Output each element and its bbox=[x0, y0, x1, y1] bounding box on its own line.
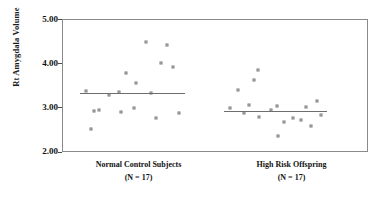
data-point bbox=[283, 120, 286, 123]
data-point bbox=[85, 89, 88, 92]
data-point bbox=[93, 110, 96, 113]
data-point bbox=[90, 127, 93, 130]
data-point bbox=[258, 115, 261, 118]
data-point bbox=[253, 78, 256, 81]
x-axis-label-left: Normal Control Subjects (N = 17) bbox=[62, 161, 215, 183]
data-point bbox=[125, 71, 128, 74]
data-point bbox=[320, 114, 323, 117]
data-point bbox=[133, 107, 136, 110]
y-tick-label-2: 2.00 bbox=[42, 147, 58, 156]
data-point bbox=[229, 107, 232, 110]
mean-line bbox=[224, 111, 327, 112]
data-point bbox=[277, 135, 280, 138]
data-point bbox=[243, 112, 246, 115]
data-point bbox=[316, 99, 319, 102]
data-point bbox=[237, 89, 240, 92]
plot-frame bbox=[62, 19, 368, 152]
data-point bbox=[300, 119, 303, 122]
y-tick-mark-2 bbox=[58, 152, 62, 153]
data-point bbox=[248, 104, 251, 107]
data-point bbox=[120, 111, 123, 114]
x-axis-label-right: High Risk Offspring (N = 17) bbox=[215, 161, 368, 183]
y-tick-label-5: 5.00 bbox=[42, 15, 58, 24]
data-point bbox=[292, 117, 295, 120]
data-point bbox=[135, 81, 138, 84]
group-n-right: (N = 17) bbox=[215, 174, 368, 182]
data-point bbox=[145, 41, 148, 44]
data-point bbox=[276, 105, 279, 108]
group-n-left: (N = 17) bbox=[62, 174, 215, 182]
chart-canvas: Rt Amygdala Volume 5.00 4.00 3.00 2.00 N… bbox=[0, 0, 385, 197]
data-point bbox=[166, 44, 169, 47]
data-point bbox=[160, 62, 163, 65]
y-axis-title: Rt Amygdala Volume bbox=[11, 0, 21, 107]
data-point bbox=[108, 94, 111, 97]
group-label-right: High Risk Offspring bbox=[257, 160, 327, 169]
data-point bbox=[310, 124, 313, 127]
y-tick-label-3: 3.00 bbox=[42, 103, 58, 112]
data-point bbox=[257, 69, 260, 72]
data-point bbox=[155, 116, 158, 119]
data-point bbox=[98, 108, 101, 111]
y-tick-label-4: 4.00 bbox=[42, 59, 58, 68]
data-point bbox=[172, 65, 175, 68]
group-label-left: Normal Control Subjects bbox=[96, 160, 182, 169]
mean-line bbox=[80, 93, 185, 94]
data-point bbox=[178, 112, 181, 115]
data-point bbox=[305, 105, 308, 108]
